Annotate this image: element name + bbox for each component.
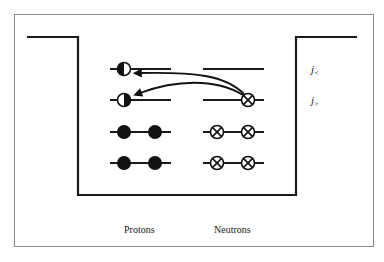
proton-filled-icon bbox=[117, 125, 131, 139]
neutrons-label: Neutrons bbox=[214, 224, 251, 235]
neutron-crossed-icon bbox=[242, 94, 255, 107]
neutron-crossed-icon bbox=[211, 157, 224, 170]
figure-frame bbox=[15, 15, 374, 247]
proton-half-filled-j-greater bbox=[118, 94, 131, 107]
neutron-crossed-icon bbox=[211, 126, 224, 139]
potential-well bbox=[27, 37, 357, 195]
proton-half-filled-j-less bbox=[118, 63, 131, 76]
neutron-crossed-icon bbox=[242, 157, 255, 170]
proton-filled-icon bbox=[117, 156, 131, 170]
neutron-levels bbox=[203, 69, 264, 163]
protons-label: Protons bbox=[124, 224, 155, 235]
arrow-icon-to-j-greater bbox=[140, 83, 243, 95]
shell-model-diagram: j< j> Protons Neutrons bbox=[0, 0, 384, 262]
proton-filled-icon bbox=[148, 156, 162, 170]
level-label-j-greater: j> bbox=[309, 94, 319, 108]
proton-filled-icon bbox=[148, 125, 162, 139]
proton-levels bbox=[110, 69, 171, 163]
level-label-j-less: j< bbox=[309, 63, 319, 77]
neutron-crossed-icon bbox=[242, 126, 255, 139]
